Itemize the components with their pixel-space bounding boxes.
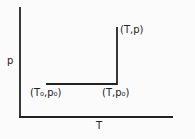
point-start-label: (T₀,p₀) [30, 88, 61, 98]
x-axis-label: T [96, 121, 102, 131]
y-axis-label: p [7, 56, 13, 66]
point-corner-label: (T,p₀) [102, 88, 129, 98]
point-end-label: (T,p) [120, 25, 143, 35]
pT-diagram [0, 0, 195, 139]
